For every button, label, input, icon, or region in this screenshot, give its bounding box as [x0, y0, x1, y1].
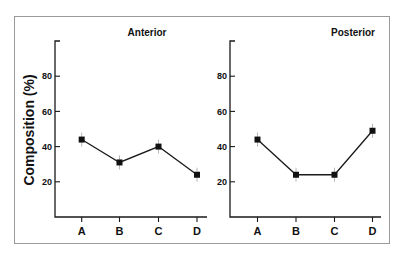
- x-tick-label: D: [193, 225, 201, 237]
- y-tick-label: 80: [42, 71, 52, 81]
- panel-title: Posterior: [331, 27, 375, 38]
- y-tick-label: 80: [217, 71, 227, 81]
- data-point-marker: [255, 137, 261, 143]
- y-tick-label: 60: [42, 107, 52, 117]
- x-tick-label: B: [116, 225, 124, 237]
- data-point-marker: [79, 137, 85, 143]
- data-point-marker: [293, 172, 299, 178]
- data-point-marker: [194, 172, 200, 178]
- x-tick-label: C: [331, 225, 339, 237]
- x-tick-label: A: [254, 225, 262, 237]
- series-line: [258, 131, 373, 175]
- x-tick-label: C: [155, 225, 163, 237]
- y-tick-label: 20: [217, 177, 227, 187]
- axes: [55, 41, 207, 217]
- figure-frame: [15, 17, 390, 244]
- figure: Composition (%) Anterior20406080ABCD Pos…: [0, 0, 403, 253]
- x-tick-label: A: [78, 225, 86, 237]
- y-tick-label: 60: [217, 107, 227, 117]
- x-tick-label: D: [369, 225, 377, 237]
- data-point-marker: [370, 128, 376, 134]
- axes: [230, 41, 381, 217]
- y-tick-label: 40: [217, 142, 227, 152]
- y-tick-label: 40: [42, 142, 52, 152]
- panel-anterior: Anterior20406080ABCD: [42, 27, 207, 237]
- data-point-marker: [332, 172, 338, 178]
- x-tick-label: B: [292, 225, 300, 237]
- data-point-marker: [117, 159, 123, 165]
- panel-posterior: Posterior20406080ABCD: [217, 27, 381, 237]
- y-tick-label: 20: [42, 177, 52, 187]
- data-point-marker: [156, 144, 162, 150]
- y-axis-label: Composition (%): [21, 74, 37, 185]
- panel-title: Anterior: [128, 27, 167, 38]
- series-line: [82, 140, 197, 175]
